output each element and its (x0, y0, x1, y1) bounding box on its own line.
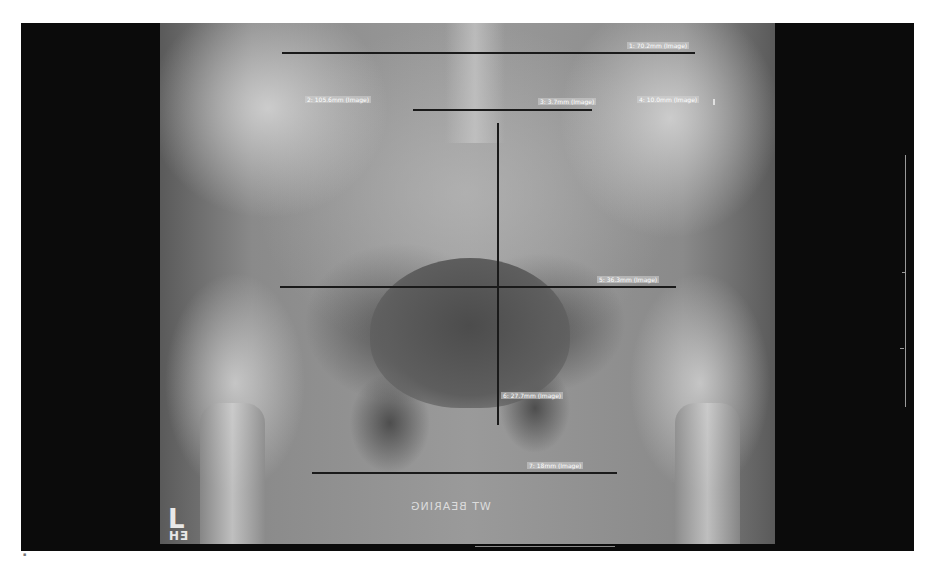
scale-tick (900, 348, 904, 349)
measurement-line-7[interactable] (312, 472, 617, 474)
measurement-label-4[interactable]: 4: 10.0mm (Image) (637, 96, 699, 103)
measurement-label-3[interactable]: 3: 3.7mm (Image) (538, 98, 596, 105)
measurement-endpoint-marker (713, 99, 715, 105)
measurement-line-1[interactable] (282, 52, 695, 54)
left-femur-region (200, 403, 265, 544)
side-marker: L EH (168, 508, 188, 542)
measurement-line-5[interactable] (280, 286, 676, 288)
tech-initials: EH (168, 530, 188, 542)
weight-bearing-label: WT BEARING (410, 500, 491, 513)
right-femur-region (675, 403, 740, 544)
measurement-label-7[interactable]: 7: 18mm (Image) (527, 462, 583, 469)
measurement-label-1[interactable]: 1: 70.2mm (Image) (627, 42, 689, 49)
spine-region (445, 23, 505, 143)
measurement-line-6[interactable] (497, 123, 499, 425)
measurement-label-5[interactable]: 5: 36.3mm (Image) (597, 276, 659, 283)
corner-annotation: ▪ (23, 551, 26, 557)
measurement-label-2[interactable]: 2: 105.6mm (Image) (305, 96, 371, 103)
measurement-line-3[interactable] (413, 109, 592, 111)
pelvic-inlet-region (370, 258, 570, 408)
measurement-label-6[interactable]: 6: 27.7mm (Image) (501, 392, 563, 399)
scale-tick (902, 272, 906, 273)
vertical-scale-ruler (905, 155, 906, 407)
horizontal-scale-ruler (475, 546, 615, 547)
side-marker-letter: L (168, 508, 188, 530)
